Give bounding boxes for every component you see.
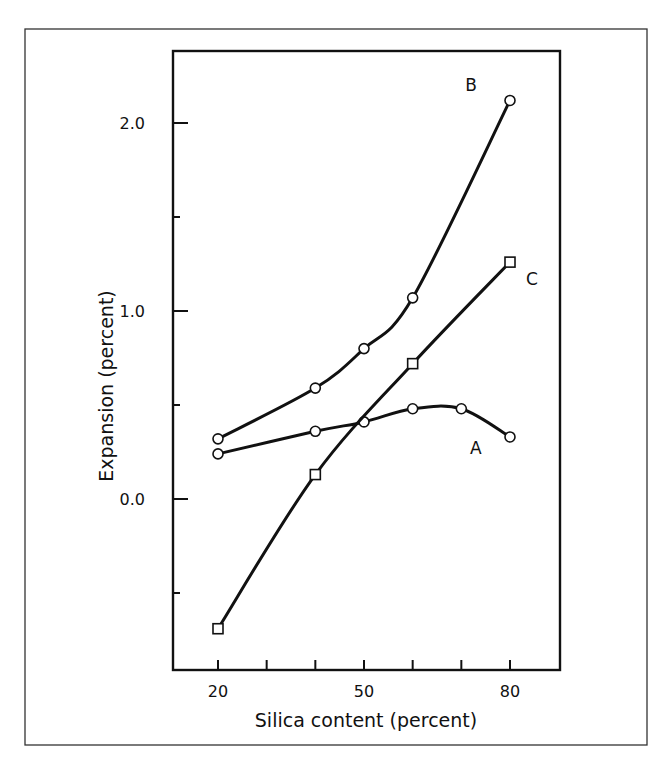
x-tick-label: 50 xyxy=(354,682,374,701)
y-axis-title: Expansion (percent) xyxy=(95,290,117,481)
circle-marker xyxy=(310,426,320,436)
series-label: B xyxy=(465,75,477,95)
circle-marker xyxy=(456,404,466,414)
series-b: B xyxy=(213,75,515,443)
circle-marker xyxy=(213,449,223,459)
circle-marker xyxy=(505,432,515,442)
circle-marker xyxy=(505,95,515,105)
series-line xyxy=(218,262,510,629)
x-tick-label: 20 xyxy=(208,682,228,701)
series-label: C xyxy=(526,269,538,289)
circle-marker xyxy=(408,293,418,303)
chart: 205080 0.01.02.0 ABC Silica content (per… xyxy=(0,0,664,765)
series-line xyxy=(218,100,510,438)
series-a: A xyxy=(213,404,515,459)
circle-marker xyxy=(408,404,418,414)
chart-canvas: 205080 0.01.02.0 ABC Silica content (per… xyxy=(0,0,664,765)
square-marker xyxy=(505,257,515,267)
square-marker xyxy=(408,359,418,369)
series-label: A xyxy=(470,438,482,458)
y-tick-label: 2.0 xyxy=(120,114,145,133)
y-tick-label: 1.0 xyxy=(120,302,145,321)
square-marker xyxy=(310,470,320,480)
circle-marker xyxy=(359,344,369,354)
circle-marker xyxy=(213,434,223,444)
series-line xyxy=(218,406,510,454)
series-c: C xyxy=(213,257,538,634)
series-layer: ABC xyxy=(213,75,538,633)
y-axis-ticks: 0.01.02.0 xyxy=(120,114,188,593)
y-tick-label: 0.0 xyxy=(120,490,145,509)
outer-frame xyxy=(25,29,647,745)
square-marker xyxy=(213,624,223,634)
x-tick-label: 80 xyxy=(500,682,520,701)
x-axis-title: Silica content (percent) xyxy=(255,709,477,731)
circle-marker xyxy=(310,383,320,393)
x-axis-ticks: 205080 xyxy=(208,660,520,701)
plot-area xyxy=(173,51,560,670)
